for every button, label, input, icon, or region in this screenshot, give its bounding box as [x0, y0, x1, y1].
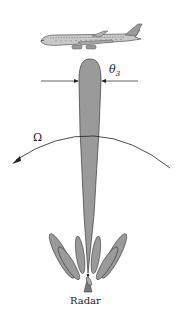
radar-beam-diagram: θ3 Ω Radar	[0, 0, 185, 318]
radar-antenna-icon	[84, 274, 92, 292]
beamwidth-label: θ3	[109, 63, 121, 78]
arrow-right-icon	[74, 79, 79, 83]
aircraft-icon	[41, 24, 142, 49]
arrowhead-icon	[12, 156, 21, 164]
arrow-left-icon	[101, 79, 106, 83]
radar-label: Radar	[70, 295, 101, 306]
rotation-label: Ω	[33, 131, 42, 144]
